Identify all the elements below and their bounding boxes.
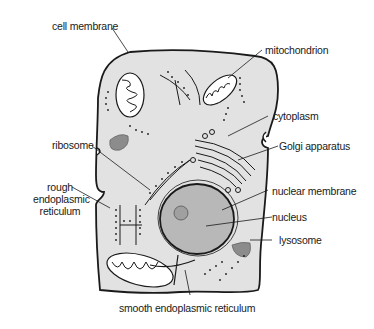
- label-nucleus: nucleus: [272, 211, 307, 223]
- label-rough-er: rough endoplasmic reticulum: [33, 181, 87, 217]
- label-ribosome: ribosome: [52, 139, 94, 151]
- label-nuclear-membrane: nuclear membrane: [272, 185, 356, 197]
- label-golgi-apparatus: Golgi apparatus: [279, 140, 350, 152]
- nucleus-shape: [160, 184, 234, 254]
- label-smooth-er: smooth endoplasmic reticulum: [119, 302, 255, 314]
- label-lysosome: lysosome: [279, 234, 322, 246]
- label-cytoplasm: cytoplasm: [273, 110, 318, 122]
- label-mitochondrion: mitochondrion: [265, 44, 328, 56]
- mitochondrion-shape: [116, 73, 144, 117]
- nucleolus: [174, 206, 188, 220]
- label-cell-membrane: cell membrane: [52, 20, 118, 32]
